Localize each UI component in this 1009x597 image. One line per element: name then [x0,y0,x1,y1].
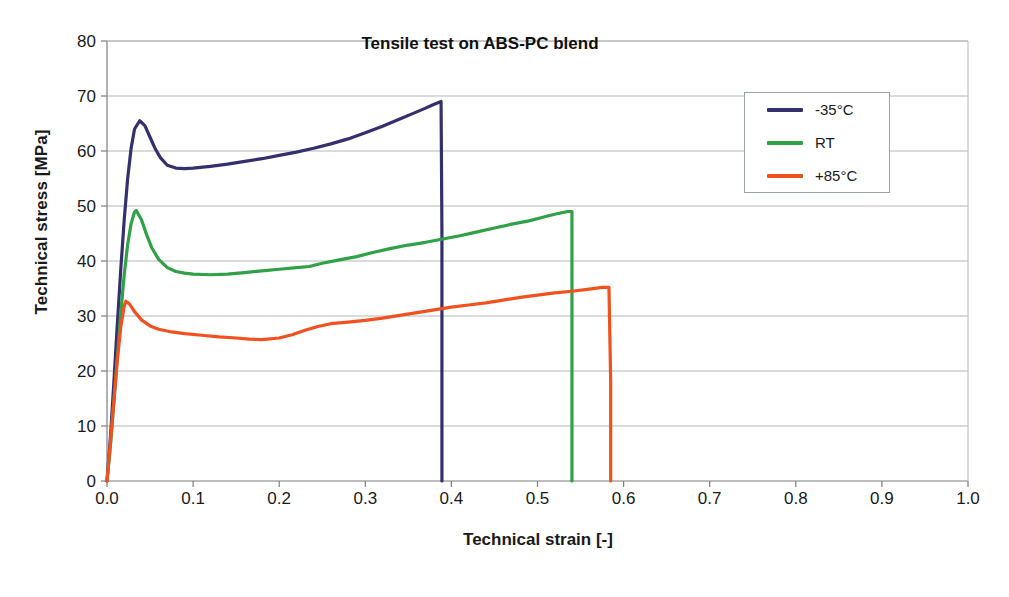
legend-label-series-2: +85°C [815,167,857,184]
legend-swatch-series-2 [767,174,803,178]
x-tick-label: 0.3 [335,489,395,509]
legend-swatch-series-1 [767,141,803,145]
chart-title: Tensile test on ABS-PC blend [200,34,760,54]
x-tick-label: 0.5 [508,489,568,509]
y-tick-label: 30 [52,307,96,327]
x-tick-label: 0.1 [163,489,223,509]
y-tick-label: 50 [52,197,96,217]
page-caption [0,586,1009,597]
y-tick-label: 20 [52,362,96,382]
x-tick-label: 0.6 [594,489,654,509]
x-tick-label: 0.7 [680,489,740,509]
y-tick-label: 80 [52,32,96,52]
y-tick-label: 10 [52,417,96,437]
x-tick-label: 0.9 [852,489,912,509]
legend-label-series-1: RT [815,134,835,151]
y-tick-label: 40 [52,252,96,272]
x-tick-label: 0.0 [77,489,137,509]
legend-item-1[interactable]: RT [745,126,889,159]
y-tick-label: 60 [52,142,96,162]
y-tick-label: 70 [52,87,96,107]
tensile-test-chart-figure: Tensile test on ABS-PC blend Technical s… [0,0,1009,597]
x-tick-label: 0.8 [766,489,826,509]
legend-swatch-series-0 [767,108,803,112]
legend-label-series-0: -35°C [815,101,854,118]
legend-item-2[interactable]: +85°C [745,159,889,192]
legend-item-0[interactable]: -35°C [745,93,889,126]
x-axis-title: Technical strain [-] [107,530,969,550]
chart-legend: -35°C RT +85°C [744,92,890,193]
x-tick-label: 0.4 [421,489,481,509]
x-tick-label: 1.0 [938,489,998,509]
x-tick-label: 0.2 [249,489,309,509]
